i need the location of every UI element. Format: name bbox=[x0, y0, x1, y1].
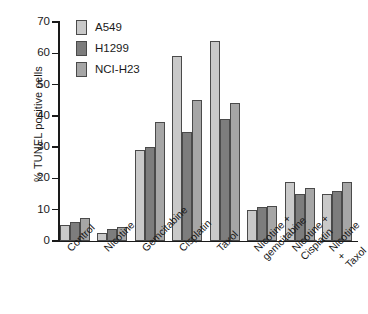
bar[interactable] bbox=[220, 119, 230, 241]
bar[interactable] bbox=[247, 210, 257, 241]
legend-swatch-icon bbox=[76, 20, 87, 35]
legend-item-label: A549 bbox=[95, 21, 122, 33]
bar[interactable] bbox=[145, 147, 155, 241]
legend-item-label: H1299 bbox=[95, 42, 129, 54]
y-axis-tick-label: 0 bbox=[10, 235, 50, 247]
y-axis-tick-label: 20 bbox=[10, 172, 50, 184]
y-axis-tick-label: 70 bbox=[10, 16, 50, 28]
bar-group bbox=[322, 22, 352, 241]
y-axis-tick-label: 40 bbox=[10, 110, 50, 122]
y-axis-tick-label: 60 bbox=[10, 47, 50, 59]
chart-legend: A549H1299NCI-H23 bbox=[76, 17, 140, 80]
bar[interactable] bbox=[182, 132, 192, 242]
bar-group bbox=[210, 22, 240, 241]
legend-item[interactable]: NCI-H23 bbox=[76, 59, 140, 79]
y-axis-tick-label: 30 bbox=[10, 141, 50, 153]
bar[interactable] bbox=[230, 103, 240, 241]
y-axis-tick-label: 10 bbox=[10, 204, 50, 216]
bar-group bbox=[247, 22, 277, 241]
bar[interactable] bbox=[210, 41, 220, 241]
y-axis-tick-label: 50 bbox=[10, 79, 50, 91]
legend-swatch-icon bbox=[76, 41, 87, 56]
legend-item-label: NCI-H23 bbox=[95, 63, 140, 75]
legend-item[interactable]: H1299 bbox=[76, 38, 140, 58]
bar[interactable] bbox=[60, 225, 70, 241]
legend-item[interactable]: A549 bbox=[76, 17, 140, 37]
legend-swatch-icon bbox=[76, 62, 87, 77]
tunel-bar-chart: % TUNEL positive cells 010203040506070 A… bbox=[0, 0, 368, 314]
